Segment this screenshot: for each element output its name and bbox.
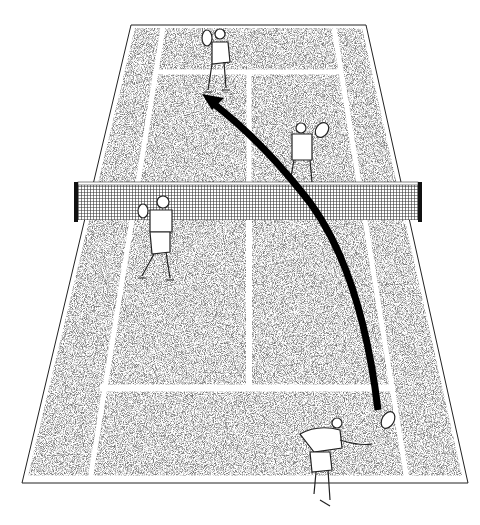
- court-surface: [22, 25, 468, 483]
- racket-icon: [202, 30, 212, 46]
- tennis-court-diagram: [0, 0, 480, 525]
- racket-icon: [138, 204, 148, 218]
- net: [74, 182, 422, 222]
- right-net-post: [418, 182, 422, 222]
- left-net-post: [74, 182, 78, 222]
